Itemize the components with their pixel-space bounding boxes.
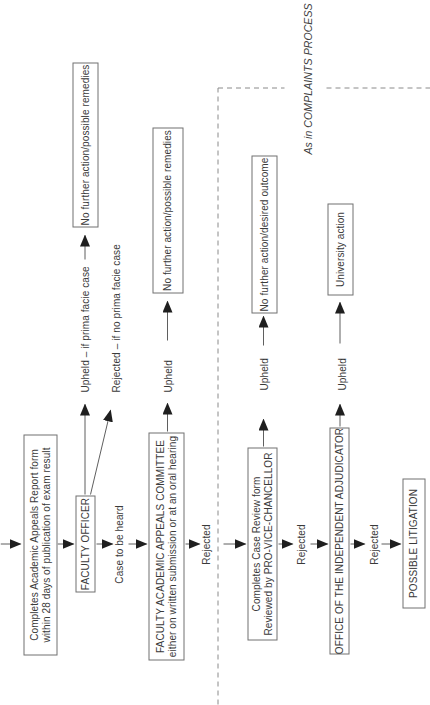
pvc-upheld-label: Upheld	[258, 358, 270, 390]
appeals-committee-line2: either on written submission or at an or…	[166, 435, 179, 656]
pvc-rejected-label: Rejected	[295, 484, 307, 604]
university-action-box: University action	[327, 203, 353, 295]
no-further-action-remedies-2-label: No further action/possible remedies	[161, 130, 174, 291]
flowchart-connectors-svg	[0, 0, 430, 705]
no-further-action-remedies-1-label: No further action/possible remedies	[79, 64, 92, 225]
start-box-line1: Completes Academic Appeals Report form	[28, 449, 41, 641]
possible-litigation-label: POSSIBLE LITIGATION	[407, 489, 420, 598]
case-review-line2: Reviewed by PRO-VICE-CHANCELLOR	[262, 452, 275, 635]
appeals-process-flowchart: Completes Academic Appeals Report form w…	[0, 0, 430, 705]
possible-litigation-box: POSSIBLE LITIGATION	[402, 478, 425, 608]
rotated-flowchart-page: Completes Academic Appeals Report form w…	[0, 0, 430, 705]
start-box-line2: within 28 days of publication of exam re…	[40, 447, 53, 642]
case-review-line1: Completes Case Review form	[250, 476, 263, 611]
committee-rejected-label: Rejected	[200, 484, 212, 604]
appeals-committee-box: FACULTY ACADEMIC APPEALS COMMITTEE eithe…	[148, 432, 184, 660]
independent-adjudicator-label: OFFICE OF THE INDEPENDENT ADJUDICATOR	[333, 427, 346, 653]
case-review-box: Completes Case Review form Reviewed by P…	[247, 447, 277, 640]
appeals-committee-line1: FACULTY ACADEMIC APPEALS COMMITTEE	[154, 439, 167, 652]
university-action-label: University action	[334, 211, 347, 286]
faculty-officer-label: FACULTY OFFICER	[79, 497, 92, 589]
upheld-prima-facie-label: Upheld – if prima facie case	[79, 266, 91, 392]
independent-adjudicator-box: OFFICE OF THE INDEPENDENT ADJUDICATOR	[329, 427, 349, 654]
arrow-officer-rejected-diagonal	[90, 410, 110, 494]
case-to-be-heard-label: Case to be heard	[113, 484, 125, 604]
no-further-action-remedies-box-1: No further action/possible remedies	[72, 62, 98, 227]
oia-upheld-label: Upheld	[336, 358, 348, 390]
faculty-officer-box: FACULTY OFFICER	[75, 495, 95, 592]
no-further-action-remedies-box-2: No further action/possible remedies	[152, 127, 183, 293]
complaints-process-note: As in COMPLAINTS PROCESS	[301, 3, 313, 154]
no-further-action-outcome-label: No further action/desired outcome	[258, 157, 271, 311]
no-further-action-outcome-box: No further action/desired outcome	[251, 155, 277, 313]
start-box: Completes Academic Appeals Report form w…	[23, 434, 57, 655]
rejected-no-prima-facie-label: Rejected – if no prima facie case	[110, 244, 122, 392]
committee-upheld-label: Upheld	[162, 360, 174, 392]
oia-rejected-label: Rejected	[368, 484, 380, 604]
